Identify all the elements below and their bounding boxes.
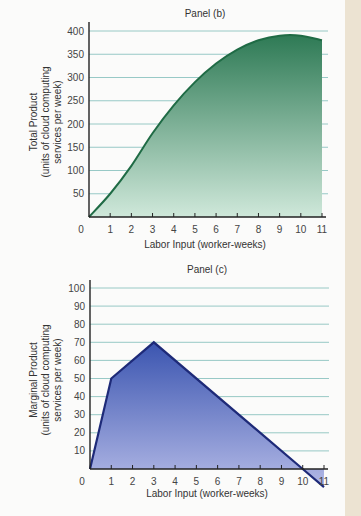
x-tick-label: 4 <box>172 476 178 487</box>
x-tick-label: 0 <box>78 224 84 235</box>
panel-c-y-axis-title: Marginal Product (units of cloud computi… <box>28 324 63 435</box>
y-tick-label: 150 <box>67 142 84 153</box>
y-tick-label: 30 <box>74 409 86 420</box>
y-tick-label: 350 <box>67 49 84 60</box>
x-tick-label: 6 <box>213 224 219 235</box>
panel-b-total-product-chart: Panel (b) 01234567891011 501001502002503… <box>28 8 328 250</box>
charts-figure: Panel (b) 01234567891011 501001502002503… <box>0 0 345 516</box>
panel-c-title: Panel (c) <box>187 264 227 275</box>
y-tick-label: 100 <box>68 283 85 294</box>
panel-c-y-title-line-1: Marginal Product <box>28 342 39 418</box>
x-tick-label: 11 <box>317 224 328 235</box>
panel-c-x-axis-title: Labor Input (worker-weeks) <box>146 488 268 499</box>
panel-b-y-axis-title: Total Product (units of cloud computing … <box>28 66 63 177</box>
y-tick-label: 40 <box>74 391 86 402</box>
x-tick-label: 11 <box>319 476 330 487</box>
y-tick-label: 20 <box>74 427 86 438</box>
panel-b-y-title-line-2: (units of cloud computing <box>40 66 51 177</box>
panel-c-y-title-line-3: services per week) <box>52 338 63 421</box>
x-tick-label: 2 <box>129 224 135 235</box>
x-tick-label: 7 <box>236 476 242 487</box>
x-tick-label: 8 <box>256 224 262 235</box>
y-tick-label: 100 <box>67 165 84 176</box>
x-tick-label: 0 <box>79 476 85 487</box>
panel-b-x-axis-title: Labor Input (worker-weeks) <box>144 239 266 250</box>
y-tick-label: 200 <box>67 119 84 130</box>
panel-c-y-title-line-2: (units of cloud computing <box>40 324 51 435</box>
x-tick-label: 4 <box>171 224 177 235</box>
x-tick-label: 3 <box>151 476 157 487</box>
y-tick-label: 10 <box>74 445 86 456</box>
x-tick-label: 9 <box>279 476 285 487</box>
y-tick-label: 80 <box>74 319 86 330</box>
x-tick-label: 10 <box>297 476 309 487</box>
x-tick-label: 5 <box>192 224 198 235</box>
x-tick-label: 3 <box>150 224 156 235</box>
x-tick-label: 5 <box>194 476 200 487</box>
panel-b-title: Panel (b) <box>185 8 226 19</box>
panel-b-area-fill <box>89 35 322 217</box>
x-tick-label: 6 <box>215 476 221 487</box>
panel-c-marginal-product-chart: Panel (c) 01234567891011 102030405060708… <box>28 264 330 499</box>
x-tick-label: 10 <box>295 224 307 235</box>
panel-b-y-tick-labels: 50100150200250300350400 <box>67 26 84 200</box>
y-tick-label: 50 <box>73 188 85 199</box>
panel-b-y-title-line-3: services per week) <box>52 80 63 163</box>
x-tick-label: 8 <box>257 476 263 487</box>
y-tick-label: 50 <box>74 373 86 384</box>
x-tick-label: 7 <box>234 224 240 235</box>
y-tick-label: 60 <box>74 355 86 366</box>
y-tick-label: 400 <box>67 26 84 37</box>
y-tick-label: 250 <box>67 95 84 106</box>
x-tick-label: 9 <box>277 224 283 235</box>
x-tick-label: 1 <box>107 224 113 235</box>
panel-b-y-title-line-1: Total Product <box>28 93 39 152</box>
x-tick-label: 2 <box>130 476 136 487</box>
x-tick-label: 1 <box>108 476 114 487</box>
panel-c-y-tick-labels: 102030405060708090100 <box>68 283 85 457</box>
y-tick-label: 90 <box>74 301 86 312</box>
y-tick-label: 300 <box>67 72 84 83</box>
y-tick-label: 70 <box>74 337 86 348</box>
paper-edge <box>345 0 361 516</box>
